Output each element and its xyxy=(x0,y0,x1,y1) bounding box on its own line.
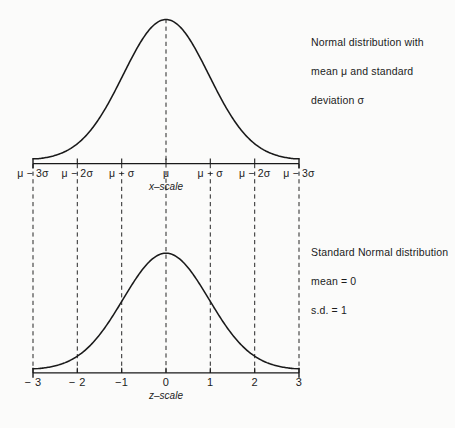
standard-note-line-1: Standard Normal distribution xyxy=(311,245,451,260)
connector-dashed-lines xyxy=(33,19,299,373)
normal-note-line-3: deviation σ xyxy=(311,93,451,108)
normal-distribution-figure: μ − 3σ μ − 2σ μ − σ μ μ − σ μ − 2σ μ − 3… xyxy=(0,0,455,428)
normal-note-line-1: Normal distribution with xyxy=(311,35,451,50)
x-scale-caption: x–scale xyxy=(126,181,206,192)
standard-note-line-3: s.d. = 1 xyxy=(311,303,451,318)
standard-normal-note: Standard Normal distribution mean = 0 s.… xyxy=(311,230,451,332)
normal-note-line-2: mean μ and standard xyxy=(311,64,451,79)
normal-distribution-note: Normal distribution with mean μ and stan… xyxy=(311,20,451,122)
z-scale-caption: z–scale xyxy=(126,390,206,401)
standard-note-line-2: mean = 0 xyxy=(311,274,451,289)
